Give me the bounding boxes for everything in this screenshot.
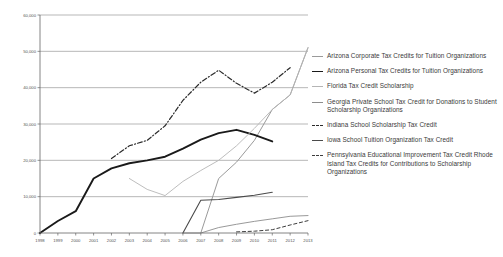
- legend-item-label: Georgia Private School Tax Credit for Do…: [327, 98, 503, 114]
- y-tick-label: 20,000: [23, 158, 36, 163]
- x-tick-label: 2013: [303, 238, 313, 243]
- x-tick-label: 2000: [71, 238, 81, 243]
- line-chart-svg: 010,00020,00030,00040,00050,00060,000 19…: [0, 0, 318, 257]
- y-tick-label: 30,000: [23, 122, 36, 127]
- series-line-0: [183, 48, 308, 233]
- y-tick-label: 10,000: [23, 194, 36, 199]
- legend-item-6[interactable]: Pennsylvania Educational Improvement Tax…: [312, 151, 503, 176]
- legend-swatch-icon: [312, 56, 323, 57]
- series-line-2: [129, 48, 308, 196]
- x-tick-label: 2008: [214, 238, 224, 243]
- legend-swatch-icon: [312, 102, 323, 103]
- legend-swatch-icon: [312, 140, 323, 141]
- y-axis-ticks-group: 010,00020,00030,00040,00050,00060,000: [23, 13, 40, 236]
- legend-item-4[interactable]: Indiana School Scholarship Tax Credit: [312, 121, 503, 129]
- legend: Arizona Corporate Tax Credits for Tuitio…: [312, 52, 503, 183]
- legend-item-label: Florida Tax Credit Scholarship: [327, 82, 414, 90]
- legend-item-label: Indiana School Scholarship Tax Credit: [327, 121, 437, 129]
- legend-item-label: Iowa School Tuition Organization Tax Cre…: [327, 136, 453, 144]
- x-tick-label: 2002: [107, 238, 117, 243]
- series-line-5: [183, 192, 272, 233]
- x-tick-label: 2001: [89, 238, 99, 243]
- x-axis-ticks-group: 1998199920002001200220032004200520062007…: [35, 233, 313, 243]
- legend-item-5[interactable]: Iowa School Tuition Organization Tax Cre…: [312, 136, 503, 144]
- x-tick-label: 2012: [285, 238, 295, 243]
- x-tick-label: 2006: [178, 238, 188, 243]
- x-tick-label: 2011: [268, 238, 278, 243]
- x-tick-label: 2004: [143, 238, 153, 243]
- legend-swatch-icon: [312, 86, 323, 87]
- series-line-3: [201, 216, 308, 233]
- series-line-4: [111, 68, 290, 159]
- legend-item-0[interactable]: Arizona Corporate Tax Credits for Tuitio…: [312, 52, 503, 60]
- legend-item-2[interactable]: Florida Tax Credit Scholarship: [312, 82, 503, 90]
- legend-item-1[interactable]: Arizona Personal Tax Credits for Tuition…: [312, 67, 503, 75]
- legend-swatch-icon: [312, 71, 323, 72]
- x-tick-label: 2007: [196, 238, 206, 243]
- x-tick-label: 1999: [53, 238, 63, 243]
- y-tick-label: 60,000: [23, 13, 36, 18]
- x-tick-label: 2003: [125, 238, 135, 243]
- x-tick-label: 1998: [35, 238, 45, 243]
- x-tick-label: 2010: [250, 238, 260, 243]
- legend-item-3[interactable]: Georgia Private School Tax Credit for Do…: [312, 98, 503, 114]
- x-tick-label: 2009: [232, 238, 242, 243]
- legend-item-label: Arizona Corporate Tax Credits for Tuitio…: [327, 52, 486, 60]
- y-tick-label: 50,000: [23, 49, 36, 54]
- legend-item-label: Arizona Personal Tax Credits for Tuition…: [327, 67, 483, 75]
- gridlines-group: [40, 15, 308, 197]
- plot-area: 010,00020,00030,00040,00050,00060,000 19…: [0, 0, 318, 257]
- legend-item-label: Pennsylvania Educational Improvement Tax…: [327, 151, 503, 176]
- chart-page: 010,00020,00030,00040,00050,00060,000 19…: [0, 0, 503, 257]
- legend-swatch-icon: [312, 125, 323, 126]
- legend-swatch-icon: [312, 155, 323, 156]
- y-tick-label: 0: [34, 231, 37, 236]
- series-group: [40, 48, 308, 233]
- x-tick-label: 2005: [160, 238, 170, 243]
- y-tick-label: 40,000: [23, 85, 36, 90]
